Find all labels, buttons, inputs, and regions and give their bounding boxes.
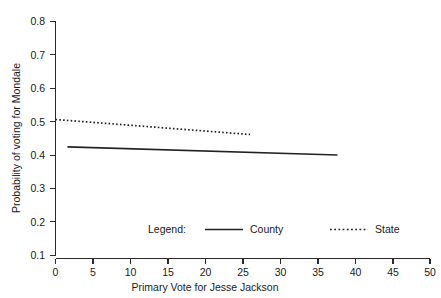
x-tick-label: 25	[237, 266, 249, 278]
line-chart: 0.8 0.7 0.6 0.5 0.4 0.3 0.2 0.1 0 5 10 1…	[0, 0, 441, 298]
series-county-line	[68, 147, 338, 155]
y-tick-label: 0.4	[30, 149, 45, 161]
x-tick-label: 10	[125, 266, 137, 278]
chart-figure: 0.8 0.7 0.6 0.5 0.4 0.3 0.2 0.1 0 5 10 1…	[0, 0, 441, 298]
legend-label-county: County	[250, 223, 284, 235]
x-axis-title: Primary Vote for Jesse Jackson	[131, 281, 278, 293]
y-tick-label: 0.3	[30, 182, 45, 194]
x-tick-label: 35	[312, 266, 324, 278]
y-axis-title: Probability of voting for Mondale	[10, 63, 22, 213]
x-tick-label: 5	[90, 266, 96, 278]
y-tick-label: 0.2	[30, 216, 45, 228]
y-tick-label: 0.6	[30, 82, 45, 94]
x-tick-marks	[56, 259, 431, 265]
y-tick-marks	[50, 22, 56, 256]
series-state-line	[56, 120, 251, 135]
y-tick-label: 0.1	[30, 249, 45, 261]
x-tick-label: 0	[53, 266, 59, 278]
chart-legend: Legend: County State	[148, 223, 400, 235]
x-tick-label: 45	[387, 266, 399, 278]
legend-title: Legend:	[148, 223, 186, 235]
x-tick-label: 40	[350, 266, 362, 278]
x-tick-label: 20	[200, 266, 212, 278]
y-tick-label: 0.8	[30, 15, 45, 27]
x-tick-label: 30	[275, 266, 287, 278]
y-tick-label: 0.5	[30, 116, 45, 128]
legend-label-state: State	[375, 223, 400, 235]
x-tick-label: 50	[424, 266, 436, 278]
x-tick-label: 15	[162, 266, 174, 278]
y-tick-label: 0.7	[30, 49, 45, 61]
